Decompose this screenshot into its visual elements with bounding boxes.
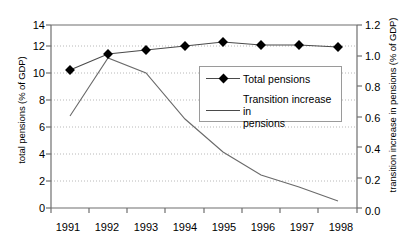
- y-axis-left-ticks: [46, 25, 51, 208]
- legend-label-total-pensions: Total pensions: [243, 73, 310, 85]
- legend: Total pensions Transition increase in pe…: [199, 66, 342, 122]
- chart-container: total pensions (% of GDP) transition inc…: [0, 0, 412, 251]
- legend-item-transition-increase: Transition increase in pensions: [206, 93, 341, 129]
- legend-key-line-icon: [206, 105, 240, 117]
- legend-label-transition-increase: Transition increase in pensions: [243, 93, 341, 129]
- legend-item-total-pensions: Total pensions: [206, 73, 310, 85]
- x-axis-ticks: [51, 208, 357, 213]
- legend-key-diamond-icon: [206, 73, 240, 85]
- y-axis-right-ticks: [357, 25, 362, 208]
